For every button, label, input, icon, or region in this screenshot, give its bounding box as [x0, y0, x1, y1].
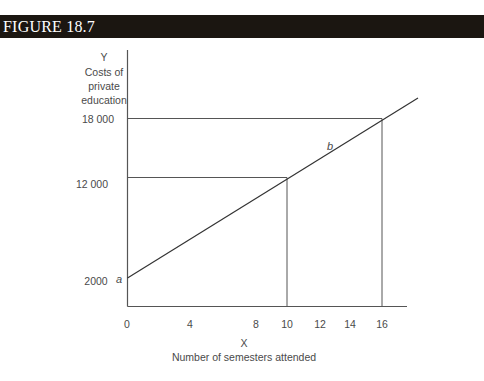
x-axis-label: Number of semesters attended — [172, 351, 316, 363]
x-tick-label: 0 — [124, 318, 130, 330]
cost-line — [128, 98, 419, 278]
y-tick-label: 12 000 — [76, 178, 108, 190]
x-tick-label: 16 — [376, 318, 388, 330]
y-axis-letter: Y — [100, 51, 107, 63]
y-tick-label: 2000 — [84, 275, 108, 287]
y-axis-label-line: Costs of — [85, 66, 124, 78]
y-tick-label: 18 000 — [82, 113, 114, 125]
line-chart: Y Costs of private education 18 000 12 0… — [0, 0, 484, 381]
point-label-a: a — [116, 273, 122, 285]
y-axis-label-line: education — [81, 94, 127, 106]
x-tick-label: 8 — [253, 318, 259, 330]
x-tick-label: 4 — [187, 318, 193, 330]
x-tick-label: 14 — [344, 318, 356, 330]
x-tick-label: 12 — [314, 318, 326, 330]
x-tick-label: 10 — [281, 318, 293, 330]
y-axis-label-line: private — [88, 80, 120, 92]
point-label-b: b — [327, 140, 333, 152]
x-axis-letter: X — [240, 337, 247, 349]
